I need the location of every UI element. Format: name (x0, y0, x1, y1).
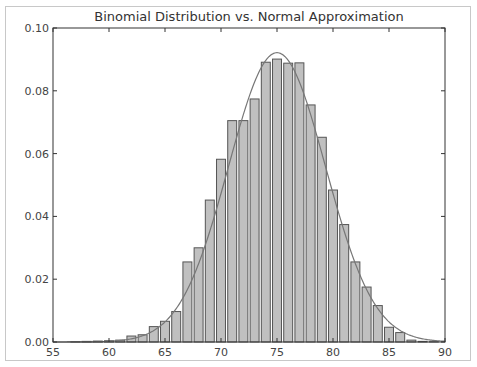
chart-area: 55606570758085900.000.020.040.060.080.10 (0, 0, 477, 367)
y-tick-label: 0.08 (25, 85, 50, 98)
histogram-bar (261, 62, 270, 342)
histogram-bar (239, 121, 248, 342)
histogram-bar (183, 262, 192, 342)
x-tick-label: 65 (158, 346, 172, 359)
histogram-bar (250, 99, 259, 342)
y-tick-label: 0.06 (25, 148, 50, 161)
x-tick-label: 70 (214, 346, 228, 359)
x-tick-label: 80 (326, 346, 340, 359)
y-tick-label: 0.04 (25, 210, 50, 223)
y-tick-label: 0.02 (25, 273, 50, 286)
histogram-bar (295, 63, 304, 342)
normal-curve-line (53, 53, 445, 342)
histogram-bar (273, 59, 282, 342)
histogram-bar (373, 306, 382, 342)
y-tick-label: 0.10 (25, 22, 50, 35)
histogram-bar (329, 190, 338, 342)
x-tick-label: 85 (382, 346, 396, 359)
histogram-bar (172, 312, 181, 342)
histogram-bar (284, 63, 293, 342)
x-tick-label: 75 (270, 346, 284, 359)
x-tick-label: 60 (102, 346, 116, 359)
histogram-bar (306, 105, 315, 342)
histogram-bar (351, 262, 360, 342)
y-tick-label: 0.00 (25, 336, 50, 349)
plot-axes-box (53, 28, 445, 342)
histogram-bar (217, 159, 226, 342)
histogram-bar (317, 137, 326, 342)
x-tick-label: 90 (438, 346, 452, 359)
histogram-bar (396, 333, 405, 342)
histogram-bar (194, 248, 203, 342)
